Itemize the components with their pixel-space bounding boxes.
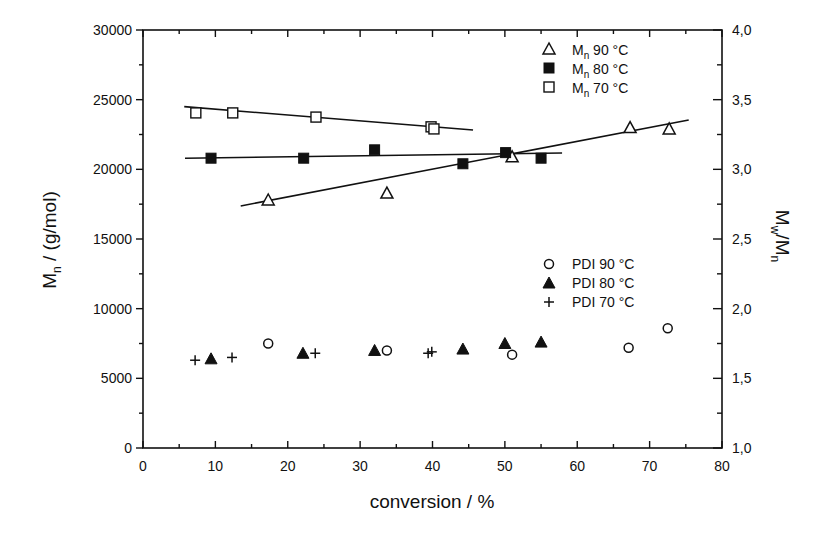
- y2-tick-label: 1,5: [732, 370, 752, 386]
- data-point: [458, 159, 468, 169]
- legend-marker-icon: [543, 277, 555, 288]
- data-point: [205, 353, 217, 364]
- y2-tick-label: 3,0: [732, 161, 752, 177]
- svg-text:Mw/Mn: Mw/Mn: [768, 210, 793, 262]
- x-tick-label: 60: [569, 458, 585, 474]
- data-point: [191, 108, 201, 118]
- data-point: [370, 145, 380, 155]
- plot-area: 0102030405060708005000100001500020000250…: [0, 0, 820, 534]
- x-tick-label: 50: [497, 458, 513, 474]
- data-point: [311, 112, 321, 122]
- data-point: [297, 347, 309, 358]
- x-tick-label: 70: [642, 458, 658, 474]
- y2-tick-label: 4,0: [732, 22, 752, 38]
- legend-label: PDI 70 °C: [572, 294, 634, 310]
- y-tick-label: 20000: [93, 161, 132, 177]
- legend-marker-icon: [544, 63, 554, 73]
- data-point: [369, 344, 381, 355]
- y-tick-label: 25000: [93, 92, 132, 108]
- y2-axis-title-slash: /M: [772, 234, 793, 255]
- axes: 0102030405060708005000100001500020000250…: [93, 22, 752, 474]
- data-point: [501, 148, 511, 158]
- legend-label: Mn 70 °C: [572, 80, 628, 99]
- chart: 0102030405060708005000100001500020000250…: [0, 0, 820, 534]
- data-point: [382, 346, 391, 355]
- x-tick-label: 40: [425, 458, 441, 474]
- plot-frame: [143, 30, 722, 448]
- data-point: [535, 336, 547, 347]
- data-point: [429, 124, 439, 134]
- y-axis-title-sub: n: [50, 266, 64, 273]
- data-point: [227, 352, 237, 362]
- x-tick-label: 30: [352, 458, 368, 474]
- legend-label: Mn 90 °C: [572, 42, 628, 61]
- data-point: [536, 153, 546, 163]
- data-point: [457, 343, 469, 354]
- legend-label: PDI 90 °C: [572, 256, 634, 272]
- y2-tick-label: 2,0: [732, 301, 752, 317]
- x-tick-label: 10: [208, 458, 224, 474]
- data-point: [508, 350, 517, 359]
- y-axis-title: Mn / (g/mol): [39, 191, 64, 288]
- data-point: [190, 355, 200, 365]
- data-point: [310, 348, 320, 358]
- data-point: [624, 122, 636, 133]
- y-axis-title-rest: / (g/mol): [39, 191, 60, 266]
- y2-axis-title-sub2: n: [768, 255, 782, 262]
- data-point: [206, 153, 216, 163]
- y2-tick-label: 3,5: [732, 92, 752, 108]
- y-tick-label: 0: [124, 440, 132, 456]
- y2-axis-title-m1: M: [772, 210, 793, 226]
- y-tick-label: 15000: [93, 231, 132, 247]
- legend-mn: Mn 90 °CMn 80 °CMn 70 °C: [543, 42, 628, 99]
- x-tick-label: 80: [714, 458, 730, 474]
- legend-marker-icon: [543, 43, 555, 54]
- data-point: [264, 339, 273, 348]
- legend-label: PDI 80 °C: [572, 275, 634, 291]
- y-tick-label: 10000: [93, 301, 132, 317]
- data-point: [663, 324, 672, 333]
- data-point: [228, 108, 238, 118]
- legend-marker-icon: [544, 82, 554, 92]
- x-tick-label: 20: [280, 458, 296, 474]
- data-point: [499, 338, 511, 349]
- y2-tick-label: 1,0: [732, 440, 752, 456]
- y2-axis-title-sub1: w: [768, 225, 782, 235]
- y2-axis-title: Mw/Mn: [768, 210, 793, 262]
- data-points: [190, 108, 675, 365]
- y2-tick-label: 2,5: [732, 231, 752, 247]
- data-point: [624, 343, 633, 352]
- y-axis-title-main: M: [39, 273, 60, 289]
- data-point: [381, 187, 393, 198]
- y-tick-label: 30000: [93, 22, 132, 38]
- svg-text:Mn / (g/mol): Mn / (g/mol): [39, 191, 64, 288]
- y-tick-label: 5000: [101, 370, 132, 386]
- x-axis-title: conversion / %: [370, 491, 495, 512]
- legend-marker-icon: [544, 297, 554, 307]
- legend-label: Mn 80 °C: [572, 61, 628, 80]
- data-point: [299, 153, 309, 163]
- legend-marker-icon: [545, 260, 554, 269]
- x-tick-label: 0: [139, 458, 147, 474]
- legend-pdi: PDI 90 °CPDI 80 °CPDI 70 °C: [543, 256, 634, 310]
